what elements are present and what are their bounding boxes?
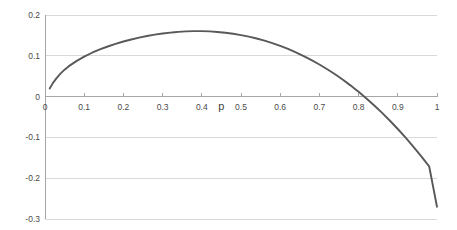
y-axis-tick-label: -0.2 — [25, 174, 40, 183]
x-axis-tick-marks — [45, 93, 437, 97]
y-axis-tick-label: 0.2 — [28, 11, 40, 20]
x-axis-tick-label: 0.5 — [235, 103, 247, 112]
x-axis-tick-label: 0.7 — [313, 103, 325, 112]
y-axis-tick-label: 0.1 — [28, 52, 40, 61]
y-axis-tick-label: -0.3 — [25, 215, 40, 224]
x-axis-tick-label: 0.2 — [117, 103, 129, 112]
x-axis-title: p — [218, 101, 224, 112]
data-series-line — [50, 31, 437, 207]
x-axis-tick-label: 1 — [435, 103, 440, 112]
y-axis-tick-label: 0 — [35, 92, 40, 101]
chart-plot-area — [0, 0, 457, 230]
x-axis-tick-label: 0.6 — [274, 103, 286, 112]
x-axis-tick-label: 0.1 — [78, 103, 90, 112]
gridlines — [45, 15, 437, 219]
x-axis-tick-label: 0.8 — [353, 103, 365, 112]
y-axis-tick-label: -0.1 — [25, 133, 40, 142]
x-axis-tick-label: 0.4 — [196, 103, 208, 112]
x-axis-tick-label: 0 — [43, 103, 48, 112]
x-axis-tick-label: 0.9 — [392, 103, 404, 112]
x-axis-tick-label: 0.3 — [157, 103, 169, 112]
chart-container: 0.20.10-0.1-0.2-0.3 00.10.20.30.40.50.60… — [0, 0, 457, 230]
